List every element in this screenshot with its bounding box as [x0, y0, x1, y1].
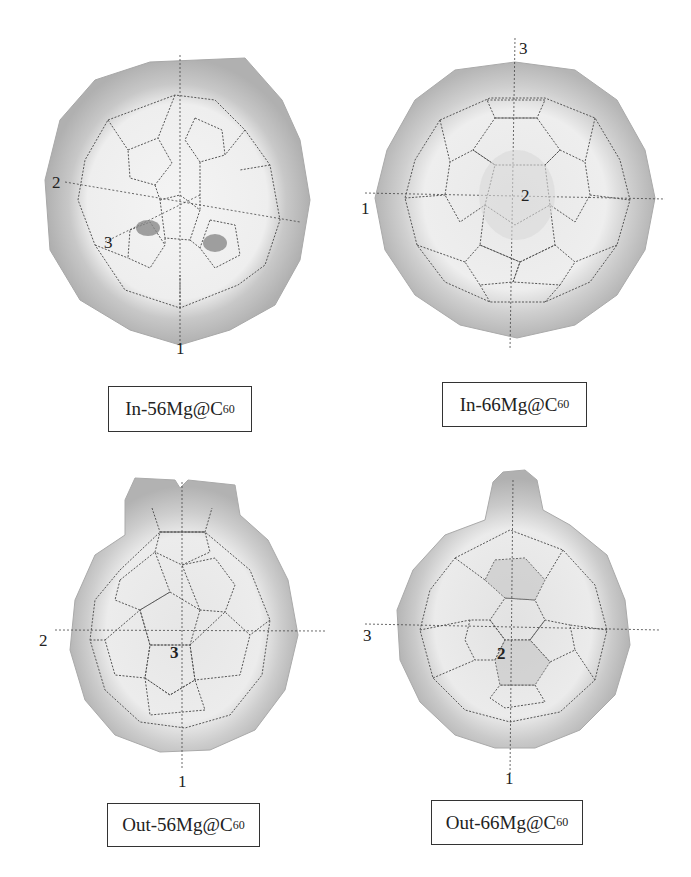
axis-label-2: 2: [39, 632, 48, 649]
axis-label-2: 2: [497, 645, 506, 662]
panel-out-56: 2 1 3 Out-56Mg@C60: [0, 440, 345, 877]
axis-label-3: 3: [104, 234, 113, 251]
caption-out-66: Out-66Mg@C60: [431, 800, 583, 845]
caption-out-56: Out-56Mg@C60: [107, 803, 260, 847]
caption-text: In-56Mg@C: [125, 398, 223, 420]
caption-text: Out-56Mg@C: [122, 814, 232, 836]
caption-in-56: In-56Mg@C60: [108, 386, 252, 432]
caption-subscript: 60: [557, 397, 569, 412]
panel-out-66: 3 1 2 Out-66Mg@C60: [345, 440, 691, 877]
axis-label-2: 2: [52, 174, 61, 191]
molecule-in-66-render: [345, 0, 691, 440]
caption-in-66: In-66Mg@C60: [442, 382, 587, 427]
panel-in-66: 3 1 2 In-66Mg@C60: [345, 0, 691, 440]
axis-label-3: 3: [170, 644, 179, 661]
caption-subscript: 60: [233, 818, 245, 833]
axis-label-2: 2: [521, 187, 530, 204]
molecule-in-56-render: [0, 0, 345, 440]
caption-subscript: 60: [223, 402, 235, 417]
axis-label-1: 1: [361, 200, 370, 217]
axis-label-1: 1: [505, 770, 514, 787]
axis-label-3: 3: [363, 627, 372, 644]
caption-subscript: 60: [556, 815, 568, 830]
caption-text: Out-66Mg@C: [446, 812, 556, 834]
axis-label-1: 1: [178, 773, 187, 790]
axis-label-3: 3: [519, 40, 528, 57]
panel-in-56: 1 2 3 In-56Mg@C60: [0, 0, 345, 440]
axis-label-1: 1: [176, 340, 185, 357]
caption-text: In-66Mg@C: [460, 394, 558, 416]
mg-atom-spot: [136, 220, 160, 236]
